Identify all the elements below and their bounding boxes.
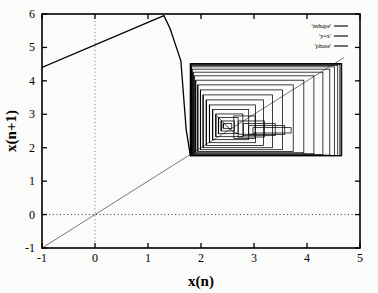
y-tick-label: 3	[29, 107, 35, 121]
x-tick-label: -1	[37, 251, 47, 265]
chart-canvas: -1012345 -10123456 x(n) x(n+1) 'nshape''…	[0, 0, 378, 293]
phase-lower-loop	[234, 116, 255, 138]
x-axis-title: x(n)	[188, 273, 214, 290]
x-axis-tick-labels: -1012345	[37, 251, 363, 265]
phase-diagram-svg: -1012345 -10123456 x(n) x(n+1) 'nshape''…	[0, 0, 378, 293]
y-axis-title: x(n+1)	[3, 110, 20, 152]
y-tick-label: -1	[25, 241, 35, 255]
y-tick-label: 2	[29, 141, 35, 155]
x-tick-label: 2	[198, 251, 204, 265]
legend: 'nshape''y=x''phase'	[312, 22, 348, 49]
legend-label-2: 'y=x'	[319, 32, 331, 39]
y-tick-label: 1	[29, 174, 35, 188]
y-tick-label: 0	[29, 208, 35, 222]
legend-label-1: 'nshape'	[312, 22, 331, 29]
x-tick-label: 4	[304, 251, 310, 265]
series-1	[42, 16, 190, 156]
series-3	[190, 63, 341, 155]
x-tick-label: 3	[251, 251, 257, 265]
x-tick-label: 5	[357, 251, 363, 265]
x-tick-label: 1	[145, 251, 151, 265]
legend-label-3: 'phase'	[315, 42, 331, 49]
data-series-layer	[42, 16, 344, 248]
x-tick-label: 0	[92, 251, 98, 265]
y-tick-label: 4	[29, 74, 35, 88]
y-axis-tick-labels: -10123456	[25, 7, 35, 255]
phase-loop	[196, 80, 304, 153]
svg-text:x(n+1): x(n+1)	[3, 110, 20, 152]
phase-lower-loop	[253, 128, 291, 133]
series-path	[42, 16, 190, 156]
y-tick-label: 5	[29, 40, 35, 54]
y-tick-label: 6	[29, 7, 35, 21]
